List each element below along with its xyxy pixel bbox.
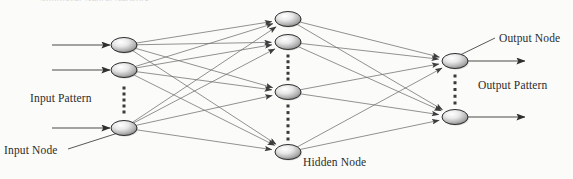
ellipsis-dot — [123, 87, 126, 90]
network-edge — [137, 22, 272, 43]
network-edge — [136, 48, 273, 87]
label-input-pattern: Input Pattern — [30, 92, 92, 104]
network-edge — [301, 94, 439, 115]
output-node-leader — [458, 38, 495, 56]
ellipsis-dot — [123, 93, 126, 96]
edges-hidden-to-output-layer — [297, 22, 443, 149]
ellipsis-dot — [287, 131, 290, 134]
network-node-o1 — [442, 54, 468, 69]
label-input-node: Input Node — [4, 144, 58, 156]
neural-network-figure: Multilayer Neural Network Input Pattern … — [0, 0, 573, 179]
network-edge — [134, 49, 275, 123]
ellipsis-dot — [123, 111, 126, 114]
ellipsis-dot — [123, 105, 126, 108]
network-node-i1 — [111, 38, 137, 53]
network-node-o2 — [442, 110, 468, 125]
ellipsis-dot — [454, 88, 457, 91]
network-edge — [135, 24, 273, 67]
network-edge — [300, 120, 439, 149]
ellipsis-dot — [287, 118, 290, 121]
network-node-i2 — [111, 63, 137, 78]
network-edge — [137, 130, 272, 150]
network-node-h4 — [275, 145, 301, 160]
ellipsis-dot — [287, 111, 290, 114]
ellipsis-dot — [287, 105, 290, 108]
network-edge — [298, 47, 441, 111]
ellipsis-dot — [287, 78, 290, 81]
ellipsis-dot — [454, 81, 457, 84]
network-node-h3 — [275, 85, 301, 100]
ellipsis-dot — [454, 102, 457, 105]
ellipsis-dot — [454, 95, 457, 98]
ellipsis-dot — [123, 99, 126, 102]
edges-input-to-hidden-layer — [133, 22, 277, 150]
label-hidden-node: Hidden Node — [303, 156, 366, 168]
label-output-pattern: Output Pattern — [478, 79, 548, 91]
ellipsis-dot — [287, 55, 290, 58]
ellipsis-dot — [287, 138, 290, 141]
network-nodes — [111, 12, 469, 161]
network-edge — [300, 22, 440, 57]
network-edge — [136, 95, 272, 125]
ellipsis-dot — [287, 124, 290, 127]
input-pattern-arrows — [52, 45, 110, 128]
label-output-node: Output Node — [499, 32, 560, 44]
network-edge — [133, 27, 277, 123]
network-node-h1 — [275, 12, 301, 27]
ellipsis-dot — [287, 66, 290, 69]
network-edge — [136, 45, 272, 68]
ellipsis-dot — [287, 72, 290, 75]
network-node-i3 — [111, 121, 137, 136]
network-edge — [300, 64, 439, 90]
network-node-h2 — [275, 35, 301, 50]
ellipsis-dot — [454, 75, 457, 78]
input-node-leader — [68, 133, 118, 149]
ellipsis-dot — [287, 60, 290, 63]
